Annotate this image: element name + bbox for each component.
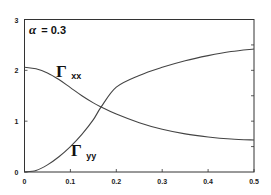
y-tick-label: 1 (15, 118, 19, 125)
x-tick-label: 0 (23, 178, 27, 185)
alpha-symbol: α (29, 22, 37, 37)
alpha-annotation: α = 0.3 (29, 22, 66, 37)
y-tick-label: 2 (15, 67, 19, 74)
gamma-yy-label: Γ yy (71, 141, 96, 161)
line-chart: 00.10.20.30.40.5 0123 α = 0.3 Γ xx Γ yy (0, 0, 271, 195)
x-tick-label: 0.4 (203, 178, 213, 185)
y-axis: 0123 (15, 17, 28, 177)
x-tick-label: 0.2 (111, 178, 121, 185)
x-tick-label: 0.1 (66, 178, 76, 185)
y-tick-label: 3 (15, 17, 19, 24)
x-axis: 00.10.20.30.40.5 (23, 169, 259, 185)
gamma-xx-subscript: xx (71, 71, 81, 81)
x-tick-label: 0.3 (157, 178, 167, 185)
alpha-value: = 0.3 (41, 24, 66, 36)
x-tick-label: 0.5 (249, 178, 259, 185)
gamma-yy-subscript: yy (86, 151, 96, 161)
gamma-yy-symbol: Γ (71, 141, 82, 160)
gamma-xx-label: Γ xx (56, 62, 81, 81)
plot-frame (25, 20, 255, 173)
gamma-xx-symbol: Γ (56, 62, 67, 81)
y-tick-label: 0 (15, 169, 19, 176)
